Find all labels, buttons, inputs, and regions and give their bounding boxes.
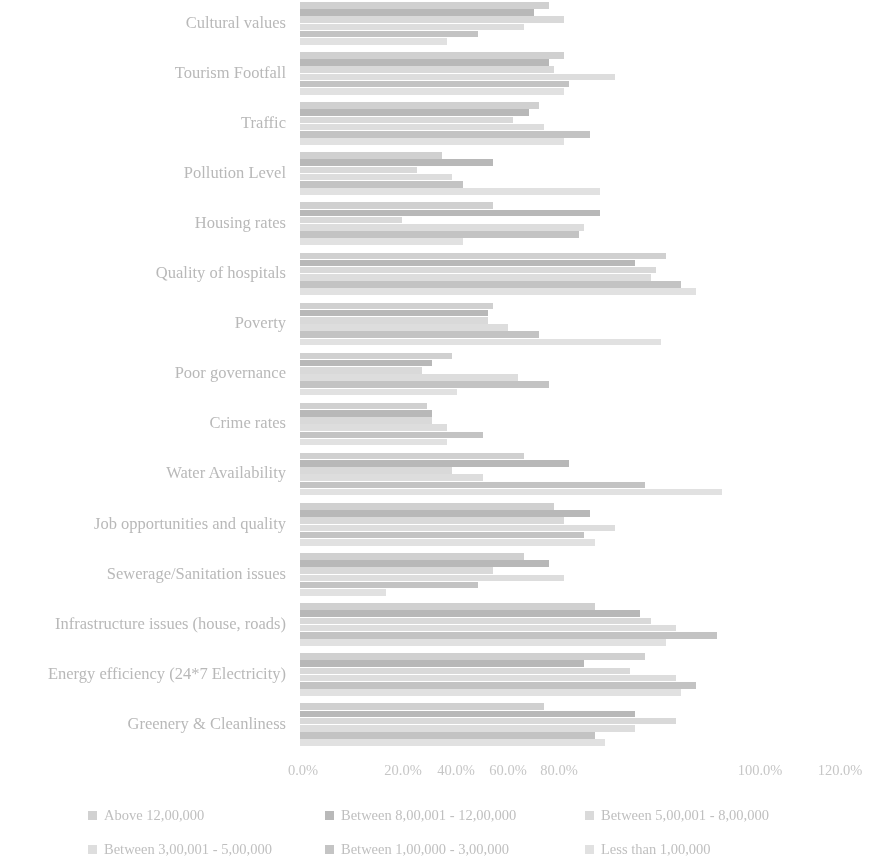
bar — [300, 81, 569, 88]
bar — [300, 482, 645, 489]
legend-item[interactable]: Between 5,00,001 - 8,00,000 — [585, 808, 769, 823]
bar — [300, 689, 681, 696]
category-label: Infrastructure issues (house, roads) — [55, 616, 286, 633]
legend-swatch-icon — [325, 811, 334, 820]
legend-item[interactable]: Between 3,00,001 - 5,00,000 — [88, 842, 272, 857]
category-label: Poverty — [235, 315, 286, 332]
bar — [300, 210, 600, 217]
chart-container: Cultural valuesTourism FootfallTrafficPo… — [0, 0, 878, 868]
bar — [300, 317, 488, 324]
bar — [300, 632, 717, 639]
bar — [300, 610, 640, 617]
bar — [300, 260, 635, 267]
bar — [300, 66, 554, 73]
bar — [300, 331, 539, 338]
bar — [300, 88, 564, 95]
bar — [300, 74, 615, 81]
bar-group — [300, 303, 661, 346]
bar-group — [300, 703, 676, 746]
bar — [300, 424, 447, 431]
bar — [300, 682, 696, 689]
category-group: Poor governance — [0, 353, 878, 403]
category-group: Poverty — [0, 303, 878, 353]
bar — [300, 59, 549, 66]
bar — [300, 660, 584, 667]
bar — [300, 374, 518, 381]
bar — [300, 174, 452, 181]
bar — [300, 124, 544, 131]
x-axis-tick-label: 120.0% — [818, 762, 863, 779]
category-label: Greenery & Cleanliness — [127, 716, 286, 733]
bar — [300, 2, 549, 9]
category-group: Traffic — [0, 102, 878, 152]
bar — [300, 281, 681, 288]
bar — [300, 417, 432, 424]
bar-group — [300, 603, 717, 646]
bar — [300, 567, 493, 574]
bar — [300, 9, 534, 16]
x-axis-tick-label: 20.0% — [384, 762, 421, 779]
bar — [300, 510, 590, 517]
bar — [300, 582, 478, 589]
bar — [300, 367, 422, 374]
bar-group — [300, 503, 615, 546]
legend-swatch-icon — [585, 811, 594, 820]
bar — [300, 474, 483, 481]
bar — [300, 503, 554, 510]
category-label: Water Availability — [166, 465, 286, 482]
bar — [300, 675, 676, 682]
bar-group — [300, 152, 600, 195]
bar — [300, 38, 447, 45]
bar-group — [300, 52, 615, 95]
bar-group — [300, 553, 564, 596]
bar — [300, 489, 722, 496]
legend-label: Above 12,00,000 — [104, 808, 204, 823]
bar — [300, 31, 478, 38]
bar — [300, 668, 630, 675]
bar — [300, 117, 513, 124]
bar — [300, 381, 549, 388]
category-label: Sewerage/Sanitation issues — [107, 566, 286, 583]
bar — [300, 159, 493, 166]
bar — [300, 360, 432, 367]
x-axis-tick-label: 40.0% — [437, 762, 474, 779]
bar — [300, 725, 635, 732]
bar — [300, 188, 600, 195]
category-label: Energy efficiency (24*7 Electricity) — [48, 666, 286, 683]
bar — [300, 152, 442, 159]
legend-item[interactable]: Above 12,00,000 — [88, 808, 204, 823]
plot-area: Cultural valuesTourism FootfallTrafficPo… — [0, 0, 878, 760]
bar — [300, 453, 524, 460]
legend-swatch-icon — [325, 845, 334, 854]
category-group: Cultural values — [0, 2, 878, 52]
x-axis-tick-label: 60.0% — [489, 762, 526, 779]
bar — [300, 303, 493, 310]
category-group: Greenery & Cleanliness — [0, 703, 878, 753]
bar — [300, 267, 656, 274]
category-group: Tourism Footfall — [0, 52, 878, 102]
category-label: Traffic — [241, 115, 286, 132]
legend-item[interactable]: Between 1,00,000 - 3,00,000 — [325, 842, 509, 857]
bar — [300, 102, 539, 109]
bar — [300, 16, 564, 23]
bar — [300, 603, 595, 610]
bar — [300, 109, 529, 116]
legend-item[interactable]: Less than 1,00,000 — [585, 842, 711, 857]
bar — [300, 560, 549, 567]
bar — [300, 403, 427, 410]
legend-item[interactable]: Between 8,00,001 - 12,00,000 — [325, 808, 516, 823]
x-axis-tick-label: 0.0% — [288, 762, 318, 779]
chart-legend: Above 12,00,000Between 8,00,001 - 12,00,… — [0, 802, 878, 868]
legend-swatch-icon — [88, 811, 97, 820]
category-group: Sewerage/Sanitation issues — [0, 553, 878, 603]
category-label: Housing rates — [195, 215, 286, 232]
bar — [300, 517, 564, 524]
category-label: Poor governance — [175, 365, 286, 382]
bar — [300, 575, 564, 582]
bar — [300, 24, 524, 31]
bar — [300, 274, 651, 281]
bar — [300, 224, 584, 231]
legend-label: Between 8,00,001 - 12,00,000 — [341, 808, 516, 823]
bar-group — [300, 202, 600, 245]
bar — [300, 310, 488, 317]
